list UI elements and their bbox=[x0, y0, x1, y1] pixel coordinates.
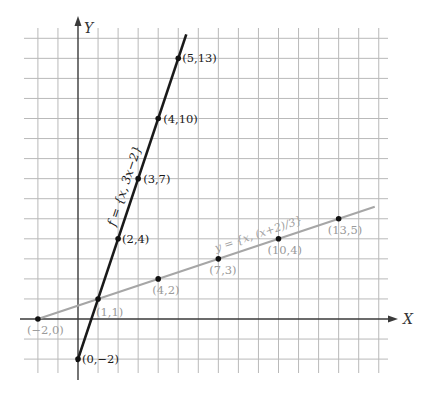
data-label: (13,5) bbox=[328, 223, 363, 237]
data-point bbox=[95, 296, 101, 302]
data-label: (1,1) bbox=[96, 305, 123, 319]
data-label: (2,4) bbox=[122, 232, 149, 246]
data-point bbox=[35, 316, 41, 322]
data-point bbox=[336, 216, 342, 222]
x-axis-arrow-icon bbox=[388, 316, 398, 323]
axes: X Y bbox=[20, 16, 414, 380]
data-label: (3,7) bbox=[143, 172, 170, 186]
series-line bbox=[38, 207, 375, 319]
data-label: (−2,0) bbox=[27, 323, 64, 337]
data-point bbox=[175, 56, 181, 62]
data-point bbox=[115, 236, 121, 242]
data-point bbox=[155, 276, 161, 282]
data-label: (7,3) bbox=[209, 263, 236, 277]
data-label: (5,13) bbox=[182, 51, 217, 65]
series-line bbox=[77, 34, 186, 362]
data-point bbox=[135, 176, 141, 182]
y-axis-label: Y bbox=[84, 20, 95, 36]
data-label: (4,2) bbox=[152, 283, 179, 297]
data-point bbox=[216, 256, 222, 262]
data-label: (10,4) bbox=[268, 243, 303, 257]
data-point bbox=[75, 356, 81, 362]
data-label: (0,−2) bbox=[82, 352, 119, 366]
data-point bbox=[155, 116, 161, 122]
series-grey: (−2,0)(1,1)(4,2)(7,3)(10,4)(13,5)y = {x,… bbox=[27, 207, 375, 337]
data-label: (4,10) bbox=[163, 112, 198, 126]
y-axis-arrow-icon bbox=[75, 16, 82, 26]
series-layer: (0,−2)(2,4)(3,7)(4,10)(5,13)f = {x, 3x−2… bbox=[27, 34, 375, 366]
coordinate-plot: X Y (0,−2)(2,4)(3,7)(4,10)(5,13)f = {x, … bbox=[0, 0, 429, 394]
x-axis-label: X bbox=[402, 311, 414, 327]
data-point bbox=[276, 236, 282, 242]
